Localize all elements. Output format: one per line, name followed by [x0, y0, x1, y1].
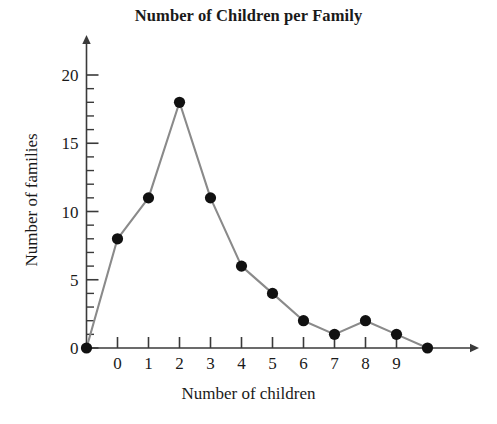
svg-text:0: 0 — [70, 339, 79, 358]
data-point-marker — [360, 315, 371, 326]
data-point-marker — [298, 315, 309, 326]
data-point-marker — [422, 342, 433, 353]
data-point-marker — [267, 288, 278, 299]
data-point-marker — [391, 329, 402, 340]
data-point-marker — [205, 192, 216, 203]
svg-text:6: 6 — [299, 354, 308, 373]
data-point-marker — [143, 192, 154, 203]
svg-text:10: 10 — [62, 203, 79, 222]
svg-text:4: 4 — [237, 354, 246, 373]
x-axis-tick-labels: 0123456789 — [113, 354, 401, 373]
line-chart-plot: 05101520 0123456789 — [0, 0, 497, 424]
svg-text:8: 8 — [361, 354, 370, 373]
y-axis-title: Number of families — [22, 100, 42, 300]
svg-text:5: 5 — [70, 271, 79, 290]
data-point-markers — [81, 97, 433, 354]
chart-figure: Number of Children per Family 05101520 0… — [0, 0, 497, 424]
svg-text:15: 15 — [62, 134, 79, 153]
data-point-marker — [236, 261, 247, 272]
data-point-marker — [112, 233, 123, 244]
data-point-marker — [174, 97, 185, 108]
svg-text:20: 20 — [62, 66, 79, 85]
y-axis-tick-labels: 05101520 — [62, 66, 79, 358]
svg-text:0: 0 — [113, 354, 122, 373]
data-series-line — [87, 102, 428, 348]
svg-text:3: 3 — [206, 354, 215, 373]
svg-text:2: 2 — [175, 354, 184, 373]
x-axis-arrow-icon — [470, 344, 479, 352]
y-axis-arrow-icon — [82, 35, 90, 44]
svg-text:5: 5 — [268, 354, 277, 373]
svg-text:7: 7 — [330, 354, 339, 373]
x-axis-major-ticks — [118, 337, 397, 348]
x-axis-title: Number of children — [0, 384, 497, 404]
svg-text:1: 1 — [144, 354, 153, 373]
svg-text:9: 9 — [392, 354, 401, 373]
data-point-marker — [329, 329, 340, 340]
data-point-marker — [81, 342, 92, 353]
